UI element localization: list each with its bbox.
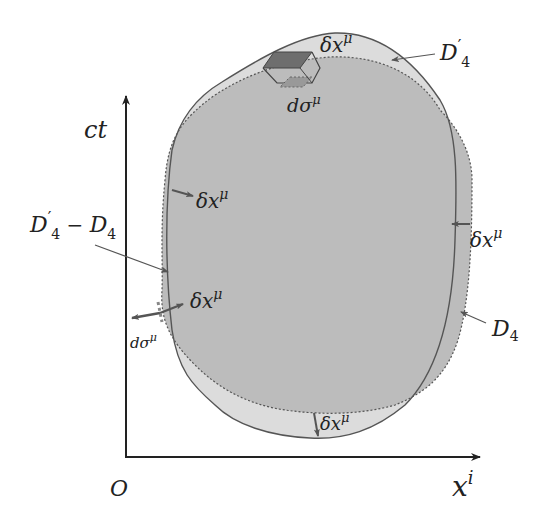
xi-axis-label: xi bbox=[452, 467, 474, 503]
spacetime-diagram: ct O xi δxμ dσμ D′4 δxμ D′4 − D4 δxμ dσμ bbox=[0, 0, 541, 527]
origin-label: O bbox=[110, 476, 128, 501]
displacement-label-right: δxμ bbox=[470, 225, 502, 252]
surface-normal-arrow bbox=[132, 313, 160, 318]
surface-element-label-left: dσμ bbox=[130, 331, 157, 352]
d4-label: D4 bbox=[491, 316, 519, 344]
ct-axis-label: ct bbox=[84, 116, 107, 144]
d4-pointer bbox=[461, 312, 486, 323]
difference-region-label: D′4 − D4 bbox=[29, 208, 116, 242]
d4-prime-label: D′4 bbox=[439, 36, 470, 70]
difference-region-pointer bbox=[95, 245, 168, 272]
region-d4 bbox=[162, 57, 472, 413]
